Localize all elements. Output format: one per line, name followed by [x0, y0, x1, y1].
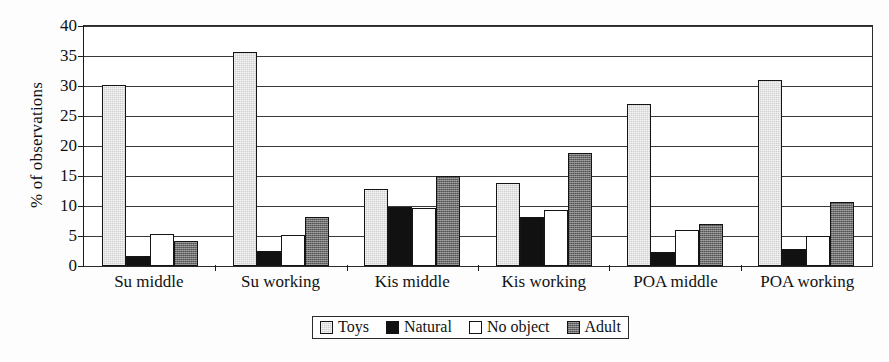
bar[interactable]: [651, 252, 675, 266]
bar[interactable]: [436, 176, 460, 266]
y-axis-tick-mark: [78, 266, 84, 267]
x-axis-category-label: Su middle: [83, 270, 215, 296]
bar[interactable]: [806, 236, 830, 266]
y-axis-tick-label: 30: [60, 77, 77, 94]
bar[interactable]: [257, 251, 281, 266]
bar[interactable]: [496, 183, 520, 266]
x-axis-category-label: Su working: [215, 270, 347, 296]
bar[interactable]: [830, 202, 854, 266]
legend-label: Natural: [404, 319, 452, 335]
legend-label: Adult: [585, 319, 621, 335]
bar[interactable]: [675, 230, 699, 266]
bar[interactable]: [388, 207, 412, 266]
y-axis-tick-label: 10: [60, 197, 77, 214]
bar-group: [609, 26, 740, 266]
y-axis-tick-label: 15: [60, 167, 77, 184]
bar-group: [215, 26, 346, 266]
legend-swatch-icon: [386, 321, 399, 334]
chart-legend: ToysNaturalNo objectAdult: [312, 316, 629, 339]
bar[interactable]: [174, 241, 198, 266]
legend-swatch-icon: [320, 321, 333, 334]
legend-item[interactable]: No object: [469, 319, 550, 335]
legend-label: Toys: [338, 319, 369, 335]
bar[interactable]: [758, 80, 782, 266]
bar[interactable]: [126, 256, 150, 266]
bar-groups: [84, 26, 872, 266]
bar[interactable]: [281, 235, 305, 266]
bar-group: [478, 26, 609, 266]
bar-group: [347, 26, 478, 266]
bar[interactable]: [520, 217, 544, 266]
bar-group: [741, 26, 872, 266]
legend-swatch-icon: [567, 321, 580, 334]
legend-item[interactable]: Toys: [320, 319, 369, 335]
y-axis-title: % of observations: [27, 30, 47, 260]
x-axis-category-label: Kis working: [478, 270, 610, 296]
legend-item[interactable]: Adult: [567, 319, 621, 335]
y-axis-tick-label: 20: [60, 137, 77, 154]
x-axis-category-label: POA middle: [610, 270, 742, 296]
plot-area: 0510152025303540: [83, 25, 873, 267]
bar[interactable]: [233, 52, 257, 266]
bar[interactable]: [699, 224, 723, 266]
x-axis-category-label: POA working: [741, 270, 873, 296]
bar-group: [84, 26, 215, 266]
bar[interactable]: [102, 85, 126, 266]
y-axis-tick-label: 0: [69, 257, 78, 274]
bar[interactable]: [782, 249, 806, 266]
bar[interactable]: [544, 210, 568, 266]
bar-chart-figure: % of observations 0510152025303540 Su mi…: [0, 0, 889, 362]
legend-swatch-icon: [469, 321, 482, 334]
bar[interactable]: [150, 234, 174, 266]
bar[interactable]: [568, 153, 592, 266]
x-axis-category-label: Kis middle: [346, 270, 478, 296]
bar[interactable]: [412, 208, 436, 266]
x-axis-labels: Su middleSu workingKis middleKis working…: [83, 270, 873, 296]
y-axis-tick-label: 25: [60, 107, 77, 124]
legend-item[interactable]: Natural: [386, 319, 452, 335]
y-axis-tick-label: 40: [60, 17, 77, 34]
y-axis-tick-label: 5: [69, 227, 78, 244]
bar[interactable]: [627, 104, 651, 266]
legend-label: No object: [487, 319, 550, 335]
y-axis-tick-label: 35: [60, 47, 77, 64]
bar[interactable]: [364, 189, 388, 266]
bar[interactable]: [305, 217, 329, 266]
